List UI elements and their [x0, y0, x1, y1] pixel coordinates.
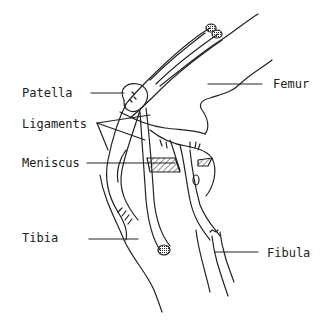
label-ligaments: Ligaments	[22, 117, 87, 131]
tibia-outline	[100, 175, 162, 312]
meniscus-lateral	[198, 158, 212, 166]
tendon-cut-end-2	[212, 30, 222, 38]
patellar-tendon-left	[106, 104, 126, 240]
label-tibia: Tibia	[22, 231, 58, 245]
femur-lower-outline	[200, 60, 272, 134]
knee-diagram: Patella Ligaments Meniscus Tibia Femur F…	[0, 0, 328, 326]
ligament-cut-end	[158, 245, 170, 255]
label-fibula: Fibula	[267, 246, 310, 260]
fibula-outline-left	[196, 230, 210, 292]
label-meniscus: Meniscus	[22, 156, 80, 170]
ligaments-leader-3	[97, 123, 145, 140]
fibula-outline-right	[212, 236, 228, 296]
meniscus-medial	[147, 158, 180, 172]
long-ligament-left	[140, 112, 160, 250]
label-patella: Patella	[22, 86, 73, 100]
ligaments-leader-2	[97, 123, 108, 150]
label-femur: Femur	[273, 77, 309, 91]
patellar-tendon-right	[121, 110, 140, 220]
